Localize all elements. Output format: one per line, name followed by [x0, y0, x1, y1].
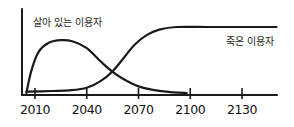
x-tick-label: 2070: [124, 102, 154, 117]
x-ticks: 20102040207021002130: [20, 88, 257, 117]
x-tick-label: 2100: [175, 102, 205, 117]
x-tick-label: 2130: [227, 102, 257, 117]
x-tick-label: 2010: [20, 102, 50, 117]
chart: 20102040207021002130 살아 있는 이용자 죽은 이용자: [0, 0, 294, 127]
x-tick-label: 2040: [72, 102, 102, 117]
dead-users-label: 죽은 이용자: [226, 36, 274, 47]
living-users-curve: [26, 40, 186, 93]
living-users-label: 살아 있는 이용자: [33, 17, 102, 28]
